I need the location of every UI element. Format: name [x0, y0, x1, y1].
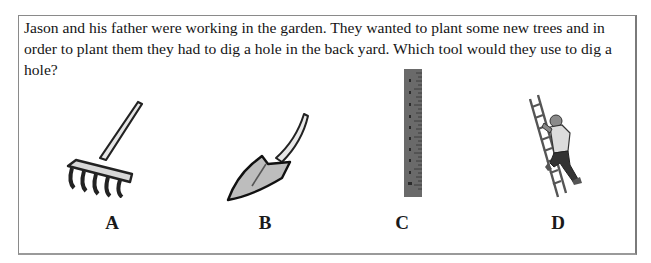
- option-b-label: B: [250, 212, 280, 234]
- option-c-label: C: [387, 212, 417, 234]
- ladder-climber-icon: [528, 93, 588, 201]
- shovel-icon: [222, 112, 317, 204]
- question-text: Jason and his father were working in the…: [24, 17, 634, 80]
- rake-icon: [62, 98, 162, 198]
- option-d-label: D: [543, 212, 573, 234]
- option-a-label: A: [97, 212, 127, 234]
- ruler-icon: [404, 69, 422, 197]
